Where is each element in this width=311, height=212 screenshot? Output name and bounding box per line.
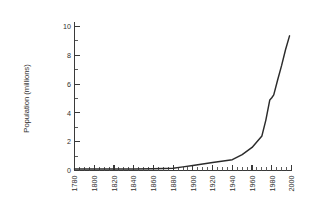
x-axis-tick-label: 1980 — [268, 176, 277, 192]
y-axis-tick-label: 8 — [67, 51, 71, 60]
x-axis-tick-label: 1900 — [189, 176, 198, 192]
y-axis-title-text: Population (millions) — [22, 64, 31, 133]
y-axis-tick-label: 6 — [67, 80, 71, 89]
x-axis-tick-label: 2000 — [287, 176, 296, 192]
x-axis-tick-label: 1940 — [228, 176, 237, 192]
y-axis-tick-label: 4 — [67, 109, 71, 118]
x-axis-tick-label: 1840 — [129, 176, 138, 192]
y-axis-title: Population (millions) — [22, 64, 31, 133]
x-axis-tick-label: 1860 — [149, 176, 158, 192]
population-line-chart: 0246810 17801800182018401860188019001920… — [0, 0, 311, 212]
x-axis-tick-label: 1800 — [90, 176, 99, 192]
data-series-group — [75, 36, 290, 169]
data-series-line — [75, 36, 290, 169]
x-axis-tick-label: 1820 — [110, 176, 119, 192]
x-axis-tick-label: 1880 — [169, 176, 178, 192]
x-axis-tick-label: 1920 — [208, 176, 217, 192]
x-axis-tick-label: 1960 — [248, 176, 257, 192]
x-axis-tick-label: 1780 — [70, 176, 79, 192]
y-axis-tick-label: 2 — [67, 137, 71, 146]
chart-canvas: 0246810 17801800182018401860188019001920… — [0, 0, 311, 212]
y-axis: 0246810 — [63, 22, 80, 176]
y-axis-tick-label: 0 — [67, 166, 71, 175]
y-axis-tick-label: 10 — [63, 22, 71, 31]
